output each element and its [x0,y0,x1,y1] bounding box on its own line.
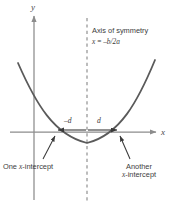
right-intercept-leader-line [120,136,130,159]
right-intercept-label: Another x-intercept [112,163,166,180]
left-intercept-prefix: One [3,162,19,171]
axis-equation-rhs: –b/2a [103,37,120,46]
axis-equation-operator: = [95,37,103,46]
left-intercept-suffix: -intercept [22,162,53,171]
right-intercept-suffix: -intercept [125,170,156,179]
y-axis-label: y [31,2,35,12]
right-intercept-line2: x-intercept [112,171,166,179]
distance-left-label: –d [64,117,72,126]
parabola-figure: y x Axis of symmetry x = –b/2a –d d One … [0,0,172,208]
left-intercept-leader-line [43,136,55,159]
left-intercept-label: One x-intercept [3,163,53,171]
axis-of-symmetry-equation: x = –b/2a [92,38,120,46]
x-axis-label: x [161,127,165,137]
axis-of-symmetry-label: Axis of symmetry [92,27,148,35]
distance-right-label: d [97,117,101,126]
